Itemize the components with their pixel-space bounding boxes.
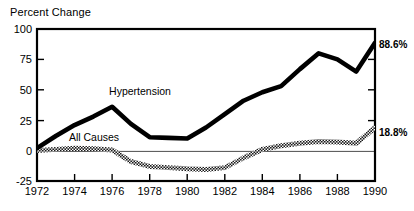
- x-tick-labels: 1972 1974 1976 1978 1980 1982 1984 1986 …: [25, 185, 387, 197]
- annotation-hypertension: Hypertension: [109, 85, 171, 97]
- ytick-label-75: 75: [20, 53, 32, 65]
- xtick-label-1976: 1976: [100, 185, 124, 197]
- xtick-label-1988: 1988: [325, 185, 349, 197]
- annotation-all-causes: All Causes: [69, 131, 119, 143]
- ytick-label-100: 100: [14, 23, 32, 35]
- xtick-label-1978: 1978: [137, 185, 161, 197]
- ytick-label-25: 25: [20, 115, 32, 127]
- chart-figure: Percent Change: [0, 0, 414, 211]
- xtick-label-1980: 1980: [175, 185, 199, 197]
- xtick-label-1986: 1986: [288, 185, 312, 197]
- endlabel-all-causes: 18.8%: [379, 127, 407, 138]
- y-tick-labels: 100 75 50 25 0 -25: [14, 23, 32, 187]
- endlabel-hypertension: 88.6%: [379, 39, 407, 50]
- xtick-label-1990: 1990: [363, 185, 387, 197]
- xtick-label-1972: 1972: [25, 185, 49, 197]
- chart-plot-svg: 100 75 50 25 0 -25 1972 1974 1976 1978 1…: [0, 0, 414, 211]
- ytick-label-0: 0: [26, 145, 32, 157]
- xtick-label-1974: 1974: [62, 185, 86, 197]
- plot-frame: [37, 29, 375, 181]
- xtick-label-1984: 1984: [250, 185, 274, 197]
- xtick-label-1982: 1982: [213, 185, 237, 197]
- ytick-label-50: 50: [20, 84, 32, 96]
